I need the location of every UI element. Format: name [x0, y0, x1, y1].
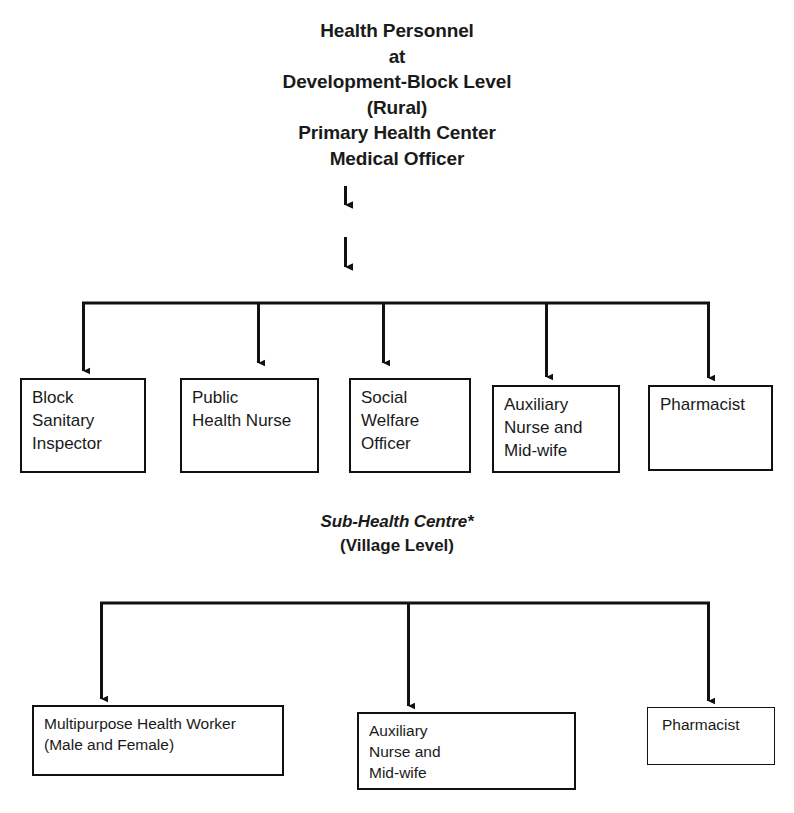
- node-label: Auxiliary Nurse and Mid-wife: [494, 387, 582, 462]
- sub-health-centre-heading: Sub-Health Centre* (Village Level): [0, 510, 794, 558]
- village-level-subtitle: (Village Level): [0, 534, 794, 558]
- node-social-welfare-officer[interactable]: Social Welfare Officer: [349, 378, 471, 473]
- node-label: Block Sanitary Inspector: [22, 380, 102, 455]
- node-public-health-nurse[interactable]: Public Health Nurse: [180, 378, 319, 473]
- node-label: Multipurpose Health Worker (Male and Fem…: [34, 707, 236, 755]
- node-label: Pharmacist: [648, 708, 740, 735]
- sub-health-centre-title: Sub-Health Centre*: [0, 510, 794, 534]
- title-line-3: Development-Block Level: [0, 69, 794, 95]
- title-line-1: Health Personnel: [0, 18, 794, 44]
- node-auxiliary-nurse-midwife-village[interactable]: Auxiliary Nurse and Mid-wife: [357, 712, 576, 790]
- org-chart-diagram: Health Personnel at Development-Block Le…: [0, 0, 794, 813]
- node-multipurpose-health-worker[interactable]: Multipurpose Health Worker (Male and Fem…: [32, 705, 284, 776]
- node-label: Auxiliary Nurse and Mid-wife: [359, 714, 441, 783]
- title-line-5: Primary Health Center: [0, 120, 794, 146]
- node-pharmacist-village[interactable]: Pharmacist: [647, 707, 775, 765]
- title-line-4: (Rural): [0, 95, 794, 121]
- node-block-sanitary-inspector[interactable]: Block Sanitary Inspector: [20, 378, 146, 473]
- node-label: Social Welfare Officer: [351, 380, 419, 455]
- node-label: Public Health Nurse: [182, 380, 291, 432]
- chart-title: Health Personnel at Development-Block Le…: [0, 18, 794, 171]
- node-auxiliary-nurse-midwife-block[interactable]: Auxiliary Nurse and Mid-wife: [492, 385, 620, 473]
- title-line-6: Medical Officer: [0, 146, 794, 172]
- title-line-2: at: [0, 44, 794, 70]
- node-label: Pharmacist: [650, 387, 745, 416]
- node-pharmacist-block[interactable]: Pharmacist: [648, 385, 773, 471]
